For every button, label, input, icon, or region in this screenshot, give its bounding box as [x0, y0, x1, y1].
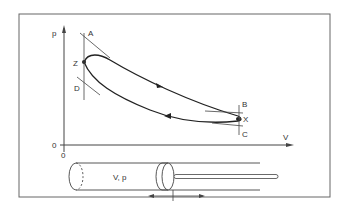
piston-cylinder [69, 163, 278, 201]
label-a: A [88, 29, 94, 38]
piston-rod [174, 175, 278, 179]
label-x: X [243, 115, 249, 124]
x-axis-arrow-icon [286, 143, 294, 147]
piston [162, 163, 174, 190]
y-axis-label: p [52, 29, 57, 38]
arrow-lower-icon [164, 113, 171, 119]
x-axis-label: V [283, 133, 289, 142]
tangent-c [212, 123, 243, 126]
origin-x-label: 0 [61, 151, 66, 160]
cylinder-label: V, p [113, 173, 127, 182]
tangent-a [80, 33, 110, 58]
pv-diagram: p V 0 0 A Z D B X C V, p [0, 0, 347, 214]
label-b: B [242, 100, 247, 109]
label-c: C [242, 130, 248, 139]
label-z: Z [73, 59, 78, 68]
frame [19, 14, 330, 197]
cycle-curve [84, 55, 241, 122]
y-axis-arrow-icon [62, 25, 66, 33]
origin-y-label: 0 [52, 141, 57, 150]
label-d: D [74, 84, 80, 93]
